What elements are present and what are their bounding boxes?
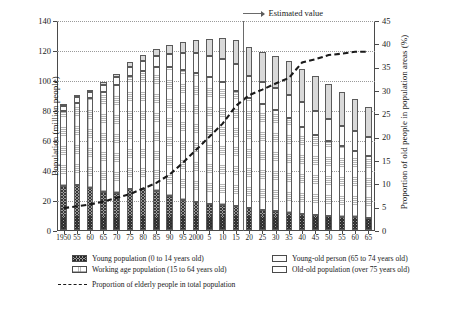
bottom-tick-mark [103,231,104,234]
right-axis-tick-label: 20 [382,133,391,142]
x-axis-tick-label: 60 [86,234,93,241]
x-axis-tick-label: 65 [365,234,372,241]
left-tick-mark [53,231,57,232]
bottom-tick-mark [276,231,277,234]
bottom-tick-mark [170,231,171,234]
x-axis-tick-label: 15 [232,234,239,241]
right-tick-mark [375,184,379,185]
x-axis-tick-label: 90 [166,234,173,241]
estimated-value-divider [243,21,244,231]
right-axis-tick-label: 15 [382,157,391,166]
bottom-tick-mark [117,231,118,234]
legend-dashed-line-icon [58,284,87,285]
bottom-tick-mark [77,231,78,234]
right-tick-mark [375,68,379,69]
bottom-tick-mark [196,231,197,234]
x-axis-tick-label: 10 [219,234,226,241]
estimated-value-arrow-icon [261,11,265,17]
legend-item-label: Proportion of elderly people in total po… [92,280,235,289]
bottom-tick-mark [183,231,184,234]
right-tick-mark [375,231,379,232]
x-axis-tick-label: 55 [73,234,80,241]
bottom-tick-mark [289,231,290,234]
x-axis-tick-label: 60 [351,234,358,241]
legend-item-label: Working age population (15 to 64 years o… [92,265,227,274]
estimated-value-leader [243,13,262,14]
x-axis-tick-label: 40 [298,234,305,241]
right-tick-mark [375,208,379,209]
bottom-tick-mark [209,231,210,234]
x-axis-tick-label: 1950 [56,234,71,241]
bottom-tick-mark [249,231,250,234]
x-axis-tick-label: 30 [272,234,279,241]
right-tick-mark [375,161,379,162]
elderly-proportion-line [57,21,375,231]
legend-item: Young-old person (65 to 74 years old) [272,254,408,263]
x-axis-tick-label: 50 [325,234,332,241]
legend-item-label: Old-old population (over 75 years old) [292,265,409,274]
x-axis-tick-label: 45 [312,234,319,241]
bottom-tick-mark [223,231,224,234]
legend-item: Old-old population (over 75 years old) [272,265,409,274]
right-tick-mark [375,21,379,22]
bottom-tick-mark [329,231,330,234]
chart-figure: 020406080100120140 051015202530354045 19… [0,0,460,309]
right-tick-mark [375,44,379,45]
x-axis-tick-label: 25 [259,234,266,241]
right-axis-tick-label: 5 [382,203,386,212]
right-tick-mark [375,138,379,139]
x-axis-tick-label: 35 [285,234,292,241]
bottom-tick-mark [262,231,263,234]
right-tick-mark [375,114,379,115]
legend-item: Working age population (15 to 64 years o… [72,265,227,274]
legend-item-label: Young-old person (65 to 74 years old) [292,254,408,263]
bottom-tick-mark [342,231,343,234]
bottom-tick-mark [368,231,369,234]
estimated-value-label: Estimated value [269,8,324,18]
bottom-tick-mark [90,231,91,234]
x-axis-tick-label: 55 [338,234,345,241]
right-axis-tick-label: 0 [382,227,386,236]
legend-item-label: Young population (0 to 14 years old) [92,254,204,263]
x-axis-tick-label: 2000 [189,234,204,241]
right-tick-mark [375,91,379,92]
x-axis-tick-label: 80 [139,234,146,241]
bottom-tick-mark [315,231,316,234]
x-axis-tick-label: 65 [100,234,107,241]
right-axis-tick-label: 45 [382,17,391,26]
right-axis-title: Proportion of old people in population a… [399,12,409,232]
bottom-tick-mark [130,231,131,234]
legend-swatch-icon [72,266,87,273]
x-axis-tick-label: 20 [245,234,252,241]
right-axis-tick-label: 10 [382,180,391,189]
legend-swatch-icon [272,266,287,273]
right-axis-tick-label: 40 [382,40,391,49]
x-axis-tick-label: 75 [126,234,133,241]
plot-area: 020406080100120140 051015202530354045 19… [57,21,375,231]
legend-swatch-icon [272,255,287,262]
bottom-tick-mark [156,231,157,234]
bottom-tick-mark [355,231,356,234]
x-axis-tick-label: 95 [179,234,186,241]
right-axis-tick-label: 30 [382,87,391,96]
left-axis-title: Population (million people) [50,21,60,231]
bottom-tick-mark [236,231,237,234]
legend-swatch-icon [72,255,87,262]
legend-item: Proportion of elderly people in total po… [58,280,235,289]
bottom-tick-mark [143,231,144,234]
right-axis-tick-label: 35 [382,63,391,72]
bottom-tick-mark [302,231,303,234]
legend-item: Young population (0 to 14 years old) [72,254,204,263]
x-axis-tick-label: 85 [153,234,160,241]
x-axis-tick-label: 5 [208,234,212,241]
x-axis-tick-label: 70 [113,234,120,241]
right-axis-tick-label: 25 [382,110,391,119]
bottom-tick-mark [64,231,65,234]
